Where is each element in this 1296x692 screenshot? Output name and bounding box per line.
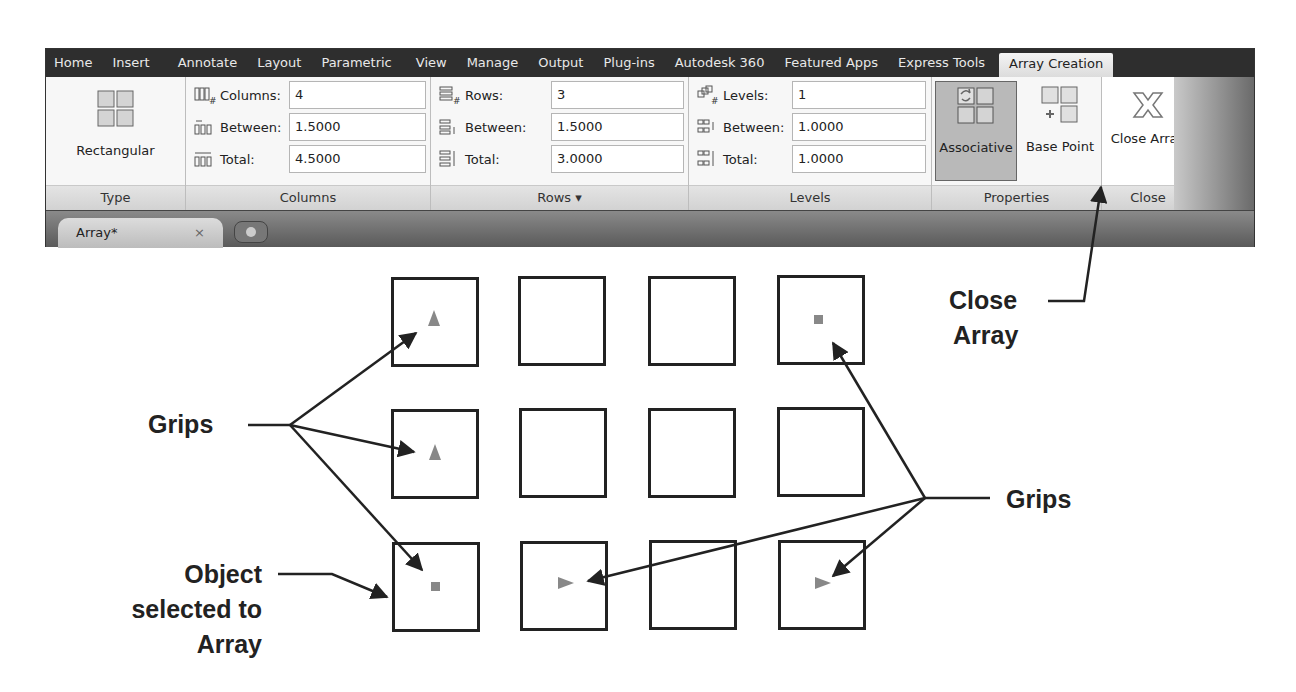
annotation-close-array-line2: Array — [953, 320, 1018, 350]
annotation-close-array-line1: Close — [949, 285, 1017, 315]
annotation-object-line1: Object — [60, 559, 262, 589]
annotation-object-line3: Array — [60, 629, 262, 659]
annotation-object-line2: selected to — [60, 594, 262, 624]
annotation-grips-left: Grips — [148, 409, 213, 439]
annotation-grips-right: Grips — [1006, 484, 1071, 514]
